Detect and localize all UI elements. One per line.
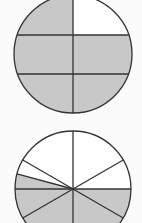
unshaded-region [73,0,132,35]
top-circle-horizontal-partition [14,0,132,113]
bottom-circle-radial-partition [15,131,131,223]
fraction-circles-diagram [0,0,142,223]
